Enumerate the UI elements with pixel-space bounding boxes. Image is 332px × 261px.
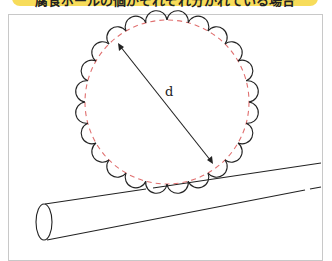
scallop-edge	[76, 11, 259, 194]
dimension-label: d	[165, 84, 173, 99]
dashed-circle	[85, 20, 249, 184]
diameter-arrow	[118, 43, 213, 164]
rod	[36, 163, 321, 240]
